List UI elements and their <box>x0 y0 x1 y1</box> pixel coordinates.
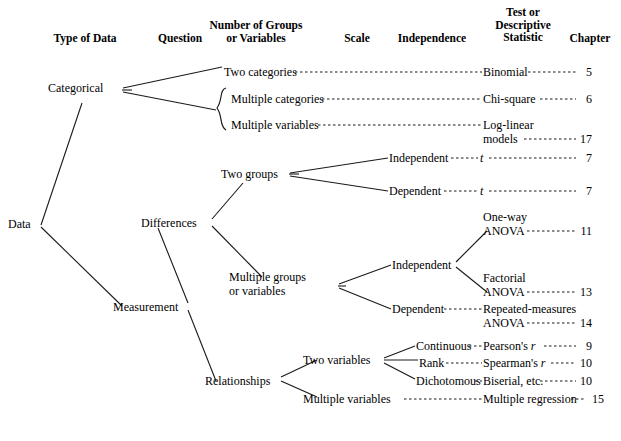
edge-two-groups-dependent <box>290 176 388 191</box>
node-label: Rank <box>419 356 444 370</box>
chapter-number: 7 <box>586 151 592 165</box>
chapter-pearson: 9 <box>570 339 592 354</box>
curly-brace-categorical <box>217 88 226 130</box>
chapter-spearman: 10 <box>570 356 592 371</box>
edge-multiple-groups-independent <box>339 265 391 284</box>
statistic-label: t <box>480 184 483 198</box>
node-label-line2: or variables <box>229 284 339 298</box>
chapter-chi-square: 6 <box>570 92 592 107</box>
node-label-line1: Multiple groups <box>229 270 339 284</box>
edge-multiple-groups-dependent <box>339 288 391 309</box>
column-header-scale: Scale <box>332 32 382 45</box>
node-two-groups: Two groups <box>221 167 278 181</box>
node-label: Multiple variables <box>303 392 391 406</box>
chapter-number: 10 <box>580 374 592 388</box>
node-dichotomous: Dichotomous <box>416 374 481 388</box>
column-header-statistic: Test or Descriptive Statistic <box>478 6 568 44</box>
statistic-label: t <box>480 151 483 165</box>
statistic-label: Pearson's <box>483 339 531 353</box>
edge-measurement-differences <box>158 228 188 303</box>
node-relationships: Relationships <box>205 374 270 388</box>
chapter-t-dependent: 7 <box>570 184 592 199</box>
node-label: Differences <box>141 216 197 230</box>
statistic-label: Binomial <box>483 65 528 79</box>
statistic-binomial: Binomial <box>483 65 528 79</box>
column-header-independence: Independence <box>386 32 478 45</box>
column-header-line3: Statistic <box>478 31 568 44</box>
edge-differences-two-groups <box>212 183 243 219</box>
statistic-t-independent: t <box>480 151 483 165</box>
statistic-spearman-r: Spearman's r <box>483 356 546 370</box>
node-label: Multiple categories <box>231 92 324 106</box>
statistic-t-dependent: t <box>480 184 483 198</box>
node-data: Data <box>8 217 31 231</box>
node-label: Dependent <box>389 184 441 198</box>
statistic-label-line1: One-way <box>483 210 593 224</box>
node-multiple-groups-or-variables: Multiple groups or variables <box>229 270 339 298</box>
node-label: Multiple variables <box>231 118 319 132</box>
column-header-label: Independence <box>398 32 466 44</box>
node-label: Measurement <box>113 300 178 314</box>
edge-data-categorical <box>41 103 82 225</box>
column-header-label: Scale <box>344 32 370 44</box>
node-dependent-multiple-groups: Dependent <box>392 302 444 316</box>
node-label: Independent <box>389 151 448 165</box>
node-label: Two groups <box>221 167 278 181</box>
column-header-label: Type of Data <box>53 32 116 44</box>
chapter-factorial-anova: 13 <box>570 285 592 300</box>
statistic-label-line1: Factorial <box>483 271 593 285</box>
node-label: Two categories <box>224 65 297 79</box>
statistic-label: Spearman's <box>483 356 541 370</box>
node-measurement: Measurement <box>113 300 178 314</box>
statistic-label: Biserial, etc. <box>483 374 543 388</box>
chapter-number: 15 <box>592 392 604 406</box>
chapter-repeated-anova: 14 <box>570 316 592 331</box>
chapter-log-linear: 17 <box>570 132 592 147</box>
edge-measurement-relationships <box>188 310 216 381</box>
chapter-t-independent: 7 <box>570 151 592 166</box>
node-continuous: Continuous <box>416 339 471 353</box>
chapter-number: 13 <box>580 285 592 299</box>
chapter-multiple-regression: 15 <box>582 392 604 407</box>
edge-categorical-two-categories <box>123 67 222 88</box>
edge-data-measurement <box>41 227 122 306</box>
node-label: Dichotomous <box>416 374 481 388</box>
chapter-number: 7 <box>586 184 592 198</box>
column-header-label: Chapter <box>570 32 611 44</box>
node-label: Categorical <box>48 81 103 95</box>
column-header-line1: Test or <box>478 6 568 19</box>
node-label: Independent <box>392 258 451 272</box>
chapter-number: 9 <box>586 339 592 353</box>
statistic-biserial: Biserial, etc. <box>483 374 543 388</box>
chapter-binomial: 5 <box>570 65 592 80</box>
chapter-number: 11 <box>580 224 592 238</box>
node-two-variables: Two variables <box>303 353 370 367</box>
chapter-number: 14 <box>580 316 592 330</box>
node-label: Relationships <box>205 374 270 388</box>
column-header-type-of-data: Type of Data <box>40 32 130 45</box>
statistical-decision-tree: Type of Data Question Number of Groups o… <box>0 0 621 441</box>
node-rank: Rank <box>419 356 444 370</box>
column-header-line1: Number of Groups <box>186 19 326 32</box>
node-multiple-categories: Multiple categories <box>231 92 324 106</box>
column-header-line2: or Variables <box>186 32 326 45</box>
node-label: Continuous <box>416 339 471 353</box>
node-independent-two-groups: Independent <box>389 151 448 165</box>
edge-two-variables-dichotomous <box>384 363 415 379</box>
node-dependent-two-groups: Dependent <box>389 184 441 198</box>
node-differences: Differences <box>141 216 197 230</box>
statistic-chi-square: Chi-square <box>483 92 536 106</box>
node-multiple-variables-relationships: Multiple variables <box>303 392 391 406</box>
edge-two-variables-continuous <box>384 346 415 358</box>
column-header-number-of-groups: Number of Groups or Variables <box>186 19 326 44</box>
chapter-number: 6 <box>586 92 592 106</box>
node-categorical: Categorical <box>48 81 103 95</box>
chapter-number: 17 <box>580 132 592 146</box>
statistic-label: Multiple regression <box>483 392 577 406</box>
chapter-number: 10 <box>580 356 592 370</box>
node-label: Data <box>8 217 31 231</box>
node-two-categories: Two categories <box>224 65 297 79</box>
statistic-multiple-regression: Multiple regression <box>483 392 577 406</box>
chapter-biserial: 10 <box>570 374 592 389</box>
chapter-one-way-anova: 11 <box>570 224 592 239</box>
